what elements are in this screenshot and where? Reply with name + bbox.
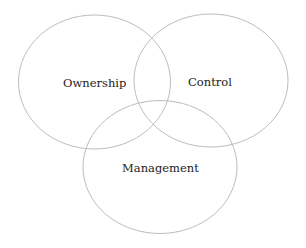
- control-label: Control: [188, 75, 232, 89]
- ownership-label: Ownership: [63, 76, 126, 90]
- venn-diagram: Ownership Control Management: [0, 0, 306, 248]
- management-label: Management: [122, 161, 199, 175]
